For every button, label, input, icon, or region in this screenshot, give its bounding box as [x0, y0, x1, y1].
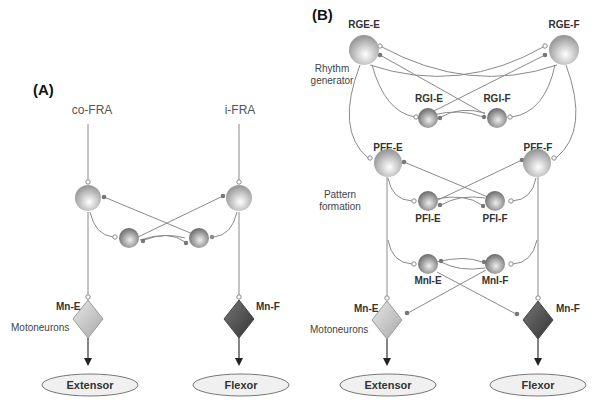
pattern-label-2: formation	[319, 201, 361, 212]
i-fra-label: i-FRA	[225, 103, 256, 117]
inhibitory-node-a-right	[189, 228, 209, 248]
panel-a-label: (A)	[33, 81, 54, 98]
mni-e-label: MnI-E	[414, 275, 442, 286]
arrow-down-icon	[534, 358, 542, 366]
rge-e-node	[349, 35, 379, 65]
extensor-label-b: Extensor	[364, 379, 412, 391]
pfi-e-label: PFI-E	[415, 213, 441, 224]
rge-f-node	[549, 35, 579, 65]
rhythm-label-2: generator	[311, 75, 354, 86]
rge-e-label: RGE-E	[348, 19, 380, 30]
rhythm-label-1: Rhythm	[315, 63, 349, 74]
pfi-f-node	[485, 191, 505, 211]
rgi-e-label: RGI-E	[415, 93, 443, 104]
arrow-down-icon	[235, 358, 243, 366]
pfe-f-node	[523, 149, 551, 177]
pfe-e-node	[374, 149, 402, 177]
arrow-down-icon	[84, 358, 92, 366]
mn-e-label-a: Mn-E	[56, 301, 81, 312]
panel-a: (A) co-FRA i-FRA	[11, 81, 289, 396]
mn-f-diamond-b	[523, 301, 553, 339]
mni-f-node	[485, 254, 505, 274]
mni-f-label: MnI-F	[482, 275, 509, 286]
motoneurons-label-b: Motoneurons	[310, 324, 368, 335]
flexor-label-a: Flexor	[224, 379, 258, 391]
pattern-label-1: Pattern	[324, 189, 356, 200]
flexor-label-b: Flexor	[521, 379, 555, 391]
panel-b: (B) RGE-E RGE-F Rhythm generator	[310, 6, 586, 396]
extensor-label-a: Extensor	[66, 379, 114, 391]
mn-f-label-b: Mn-F	[556, 303, 580, 314]
pfi-f-label: PFI-F	[483, 213, 508, 224]
co-fra-label: co-FRA	[72, 103, 113, 117]
excitatory-node-a-right	[226, 185, 252, 211]
inhibitory-node-a-left	[119, 228, 139, 248]
mn-f-label-a: Mn-F	[256, 301, 280, 312]
excitatory-node-a-left	[75, 185, 101, 211]
rge-f-label: RGE-F	[548, 19, 579, 30]
cpg-diagram: (A) co-FRA i-FRA	[0, 0, 596, 406]
rgi-e-node	[418, 108, 438, 128]
rgi-f-label: RGI-F	[483, 93, 510, 104]
pfi-e-node	[418, 191, 438, 211]
mni-e-node	[418, 254, 438, 274]
rgi-f-node	[487, 108, 507, 128]
panel-b-label: (B)	[312, 6, 333, 23]
mn-f-diamond-a	[224, 300, 254, 338]
mn-e-label-b: Mn-E	[354, 303, 379, 314]
motoneurons-label-a: Motoneurons	[11, 322, 69, 333]
arrow-down-icon	[383, 358, 391, 366]
